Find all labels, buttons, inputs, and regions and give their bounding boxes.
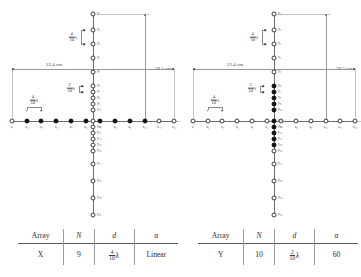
y-array-node[interactable] (272, 213, 277, 218)
x-array-node[interactable] (10, 119, 15, 124)
x-array-node[interactable] (220, 119, 225, 124)
y-array-node[interactable] (91, 143, 96, 148)
x-array-node-label: x₁₀ (323, 126, 327, 130)
y-array-node[interactable] (91, 108, 96, 113)
y-array-node[interactable] (91, 12, 96, 17)
y-array-node[interactable] (272, 131, 277, 136)
y-array-node[interactable] (91, 162, 96, 167)
x-array-node[interactable] (24, 119, 29, 124)
y-array-node-label: y₁₇ (278, 162, 282, 166)
y-array-node[interactable] (91, 42, 96, 47)
y-array-node[interactable] (91, 96, 96, 101)
x-array-node[interactable] (323, 119, 328, 124)
fraction-stack: 410 (250, 32, 256, 43)
dimension-marker-left (12, 68, 14, 70)
fraction-denominator: 10 (30, 100, 36, 106)
td-alpha: Linear (134, 244, 178, 265)
x-array-node[interactable] (83, 119, 88, 124)
x-array-node[interactable] (127, 119, 132, 124)
y-array-node-label: y₇ (278, 90, 281, 94)
x-array-node[interactable] (191, 119, 196, 124)
x-array-node-label: x₁₂ (353, 126, 357, 130)
y-array-node[interactable] (91, 90, 96, 95)
fraction-stack: 410 (30, 95, 36, 106)
x-array-node[interactable] (294, 119, 299, 124)
y-array-node[interactable] (272, 42, 277, 47)
spacing-label-horizontal-wide: 410λ (211, 95, 219, 106)
x-array-node[interactable] (353, 119, 358, 124)
y-array-node[interactable] (272, 12, 277, 17)
x-array-node[interactable] (308, 119, 313, 124)
y-array-node[interactable] (272, 28, 277, 33)
y-array-node[interactable] (91, 70, 96, 75)
y-array-node[interactable] (91, 131, 96, 136)
y-array-node-label: y₁₀ (97, 108, 101, 112)
td-n: 9 (64, 244, 94, 265)
y-array-node[interactable] (91, 119, 96, 124)
y-array-node[interactable] (272, 108, 277, 113)
y-array-node[interactable] (91, 84, 96, 89)
lambda-symbol: λ (296, 251, 299, 260)
th-n: N (244, 229, 274, 244)
y-array-node[interactable] (272, 149, 277, 154)
y-array-node[interactable] (91, 56, 96, 61)
spacing-label-narrow: 210λ (67, 83, 75, 94)
caliper-dot (83, 43, 85, 45)
y-array-node-label: y₁ (97, 12, 100, 16)
x-array-node[interactable] (68, 119, 73, 124)
x-array-node[interactable] (142, 119, 147, 124)
caliper-dot (81, 85, 83, 87)
y-array-node[interactable] (272, 90, 277, 95)
y-array-node[interactable] (272, 143, 277, 148)
horizontal-dimension-label: 22.4 cm (46, 62, 62, 67)
y-array-node[interactable] (272, 196, 277, 201)
y-array-node-label: y₆ (97, 84, 100, 88)
y-array-node[interactable] (91, 179, 96, 184)
x-array-node[interactable] (157, 119, 162, 124)
x-array-node[interactable] (39, 119, 44, 124)
x-array-node-label: x₁ (191, 126, 194, 130)
x-array-node[interactable] (113, 119, 118, 124)
x-array-node[interactable] (205, 119, 210, 124)
y-array-node[interactable] (91, 149, 96, 154)
y-array-node[interactable] (272, 56, 277, 61)
caliper-dot (264, 43, 266, 45)
y-array-node[interactable] (272, 179, 277, 184)
x-array-node[interactable] (172, 119, 177, 124)
y-array-node-label: y₉ (97, 102, 100, 106)
y-array-node[interactable] (272, 162, 277, 167)
y-array-node[interactable] (272, 96, 277, 101)
y-array-node[interactable] (91, 102, 96, 107)
y-array-node-label: y₂ (97, 28, 100, 32)
y-array-node[interactable] (272, 119, 277, 124)
y-array-node-label: y₁₅ (97, 143, 101, 147)
diagram-panel-y: 28.5 cm22.4 cmx₁x₂x₃x₄x₅x₆x₇x₈x₉x₁₀x₁₁x₁… (181, 0, 361, 228)
th-d: d (274, 229, 314, 244)
y-array-node[interactable] (91, 28, 96, 33)
x-array-node[interactable] (338, 119, 343, 124)
spacing-label-horizontal-wide: 410λ (30, 95, 38, 106)
y-array-node[interactable] (272, 137, 277, 142)
y-array-node[interactable] (272, 102, 277, 107)
fraction-stack: 4 10 (109, 250, 114, 262)
y-array-node[interactable] (91, 125, 96, 130)
y-array-node[interactable] (272, 70, 277, 75)
y-array-node-label: y₄ (97, 56, 100, 60)
x-array-node-label: x₁₁ (157, 126, 161, 130)
y-array-node[interactable] (91, 137, 96, 142)
caliper-dot (81, 91, 83, 93)
x-array-node-label: x₈ (114, 126, 117, 130)
y-array-node-label: y₂₀ (97, 213, 101, 217)
y-array-node-label: y₁₉ (97, 196, 101, 200)
fraction-denominator: 10 (250, 37, 256, 43)
x-array-node[interactable] (54, 119, 59, 124)
x-array-node[interactable] (235, 119, 240, 124)
x-array-node-label: x₆ (265, 126, 268, 130)
y-array-node[interactable] (272, 84, 277, 89)
x-array-node[interactable] (264, 119, 269, 124)
y-array-node[interactable] (272, 125, 277, 130)
y-array-node[interactable] (91, 213, 96, 218)
x-array-node[interactable] (249, 119, 254, 124)
y-array-node[interactable] (91, 196, 96, 201)
y-array-node-label: y₁₄ (97, 137, 101, 141)
